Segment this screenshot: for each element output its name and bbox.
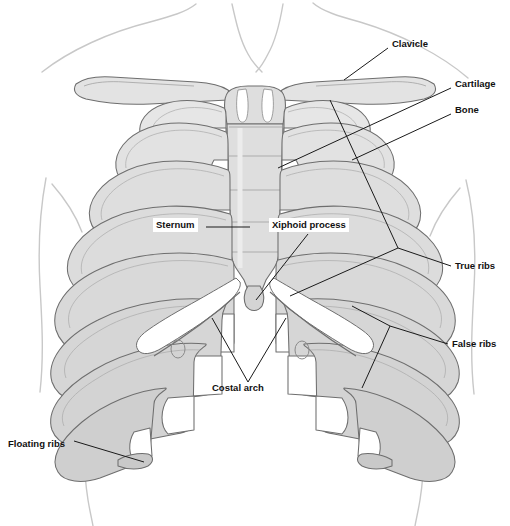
label-true-ribs: True ribs bbox=[455, 261, 495, 271]
label-xiphoid-process: Xiphoid process bbox=[269, 218, 349, 232]
label-costal-arch: Costal arch bbox=[212, 383, 264, 393]
ribs-left bbox=[51, 101, 234, 482]
label-cartilage: Cartilage bbox=[455, 79, 496, 89]
leader-clavicle bbox=[344, 48, 388, 80]
clavicle-left bbox=[74, 77, 231, 105]
label-false-ribs: False ribs bbox=[452, 339, 496, 349]
label-clavicle: Clavicle bbox=[392, 39, 428, 49]
label-floating-ribs: Floating ribs bbox=[8, 439, 65, 449]
rib-cage-diagram: Clavicle Cartilage Bone True ribs False … bbox=[0, 0, 510, 526]
ribs-right bbox=[276, 101, 459, 482]
label-bone: Bone bbox=[455, 105, 479, 115]
anatomy-illustration bbox=[0, 0, 510, 526]
clavicle-right bbox=[279, 77, 436, 105]
label-sternum: Sternum bbox=[153, 218, 198, 232]
